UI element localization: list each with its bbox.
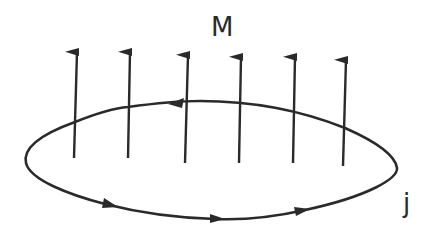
loop-direction-arrow-bottom-left xyxy=(102,198,118,208)
current-loop xyxy=(26,101,397,219)
loop-direction-arrow-bottom-middle xyxy=(210,214,225,223)
magnetization-arrow-4 xyxy=(239,57,241,163)
current-label: j xyxy=(403,190,410,216)
magnetization-arrow-6 xyxy=(343,60,346,166)
magnetization-label: M xyxy=(211,14,233,40)
magnetization-arrow-5 xyxy=(293,57,295,163)
magnetization-arrow-2 xyxy=(128,52,130,158)
magnetization-arrow-1 xyxy=(74,52,77,158)
magnetization-arrow-3 xyxy=(185,55,188,163)
